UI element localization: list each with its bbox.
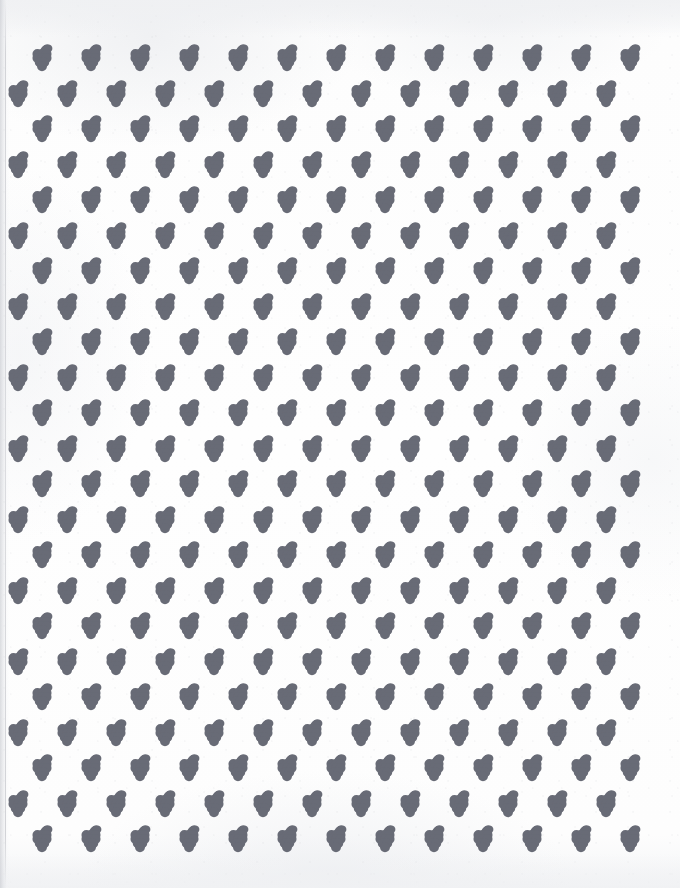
grape-motif — [374, 612, 396, 638]
grape-motif — [350, 80, 372, 106]
grape-cluster-icon — [374, 683, 396, 709]
grape-motif — [472, 328, 494, 354]
grape-cluster-icon — [31, 470, 53, 496]
grape-cluster-icon — [7, 151, 29, 177]
grape-cluster-icon — [325, 612, 347, 638]
grape-cluster-icon — [619, 328, 641, 354]
grape-cluster-icon — [80, 44, 102, 70]
grape-cluster-icon — [350, 719, 372, 745]
grape-cluster-icon — [227, 399, 249, 425]
grape-motif — [301, 293, 323, 319]
grape-cluster-icon — [227, 683, 249, 709]
grape-motif — [31, 541, 53, 567]
grape-motif — [178, 470, 200, 496]
grape-cluster-icon — [276, 470, 298, 496]
grape-cluster-icon — [350, 151, 372, 177]
grape-cluster-icon — [374, 612, 396, 638]
grape-motif — [129, 612, 151, 638]
scan-edge-left-line — [5, 0, 6, 888]
grape-motif — [276, 44, 298, 70]
grape-motif — [105, 435, 127, 461]
grape-motif — [252, 364, 274, 390]
grape-motif — [80, 257, 102, 283]
grape-cluster-icon — [521, 683, 543, 709]
grape-cluster-icon — [350, 222, 372, 248]
grape-cluster-icon — [301, 648, 323, 674]
grape-motif — [448, 151, 470, 177]
grape-cluster-icon — [7, 790, 29, 816]
grape-motif — [56, 222, 78, 248]
grape-cluster-icon — [570, 257, 592, 283]
grape-motif — [56, 790, 78, 816]
grape-cluster-icon — [7, 506, 29, 532]
grape-cluster-icon — [595, 648, 617, 674]
grape-motif — [570, 115, 592, 141]
grape-motif — [325, 825, 347, 851]
grape-cluster-icon — [325, 399, 347, 425]
grape-cluster-icon — [472, 115, 494, 141]
grape-motif — [570, 612, 592, 638]
grape-cluster-icon — [399, 506, 421, 532]
grape-cluster-icon — [80, 328, 102, 354]
grape-cluster-icon — [325, 44, 347, 70]
grape-cluster-icon — [423, 328, 445, 354]
grape-motif — [472, 115, 494, 141]
grape-cluster-icon — [56, 648, 78, 674]
grape-motif — [129, 541, 151, 567]
grape-motif — [399, 435, 421, 461]
grape-motif — [154, 222, 176, 248]
grape-motif — [472, 541, 494, 567]
grape-cluster-icon — [178, 257, 200, 283]
grape-cluster-icon — [521, 541, 543, 567]
grape-motif — [472, 399, 494, 425]
grape-motif — [7, 648, 29, 674]
grape-motif — [448, 506, 470, 532]
grape-cluster-icon — [325, 186, 347, 212]
grape-motif — [595, 648, 617, 674]
grape-motif — [374, 257, 396, 283]
grape-cluster-icon — [521, 257, 543, 283]
grape-cluster-icon — [301, 222, 323, 248]
grape-cluster-icon — [521, 115, 543, 141]
grape-cluster-icon — [129, 470, 151, 496]
grape-motif — [521, 754, 543, 780]
grape-cluster-icon — [448, 577, 470, 603]
grape-cluster-icon — [56, 577, 78, 603]
grape-cluster-icon — [595, 506, 617, 532]
grape-cluster-icon — [350, 577, 372, 603]
grape-cluster-icon — [154, 364, 176, 390]
grape-motif — [423, 683, 445, 709]
grape-motif — [301, 435, 323, 461]
grape-cluster-icon — [227, 44, 249, 70]
grape-cluster-icon — [595, 222, 617, 248]
grape-cluster-icon — [423, 115, 445, 141]
grape-motif — [301, 648, 323, 674]
grape-cluster-icon — [7, 577, 29, 603]
grape-motif — [472, 186, 494, 212]
grape-cluster-icon — [276, 44, 298, 70]
grape-motif — [423, 328, 445, 354]
grape-cluster-icon — [497, 790, 519, 816]
grape-cluster-icon — [252, 293, 274, 319]
grape-motif — [56, 435, 78, 461]
grape-motif — [546, 719, 568, 745]
grape-motif — [423, 754, 445, 780]
grape-cluster-icon — [472, 399, 494, 425]
grape-motif — [105, 364, 127, 390]
grape-cluster-icon — [448, 151, 470, 177]
grape-cluster-icon — [129, 541, 151, 567]
grape-motif — [301, 222, 323, 248]
grape-cluster-icon — [154, 506, 176, 532]
grape-cluster-icon — [301, 719, 323, 745]
grape-motif — [56, 151, 78, 177]
grape-cluster-icon — [448, 364, 470, 390]
grape-cluster-icon — [497, 435, 519, 461]
grape-motif — [203, 151, 225, 177]
grape-motif — [374, 754, 396, 780]
grape-motif — [31, 470, 53, 496]
grape-motif — [423, 612, 445, 638]
grape-motif — [497, 648, 519, 674]
grape-cluster-icon — [619, 257, 641, 283]
grape-motif — [521, 257, 543, 283]
grape-cluster-icon — [129, 399, 151, 425]
